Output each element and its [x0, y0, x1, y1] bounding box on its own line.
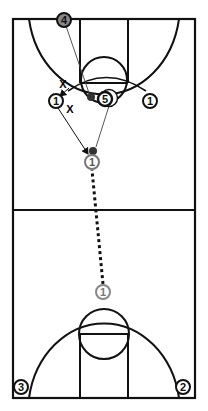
defender-x-bottom: X — [66, 103, 74, 115]
play-actions — [58, 26, 109, 284]
player-3: 3 — [14, 380, 28, 394]
players: 4 1 5 1 1 1 3 2 — [14, 13, 190, 394]
player-2-label: 2 — [180, 381, 186, 393]
dribble-dotted-line — [92, 170, 103, 284]
player-4-label: 4 — [61, 14, 68, 26]
ball-icon — [87, 93, 95, 101]
ball-icon — [89, 147, 97, 155]
player-1-right-wing: 1 — [143, 94, 157, 108]
player-1-left-label: 1 — [53, 95, 59, 107]
player-1-left-wing: 1 — [49, 94, 63, 108]
pass-line-5-to-wing — [96, 106, 109, 147]
player-1-top-key: 1 — [85, 155, 99, 169]
player-1-backcourt: 1 — [96, 285, 110, 299]
player-1-right-label: 1 — [147, 95, 153, 107]
player-2: 2 — [176, 380, 190, 394]
player-5: 5 — [98, 90, 118, 107]
player-1-backcourt-label: 1 — [100, 286, 106, 298]
bottom-half-court — [29, 309, 179, 398]
court-boundary — [13, 19, 195, 398]
player-3-label: 3 — [18, 381, 24, 393]
player-1-top-label: 1 — [89, 156, 95, 168]
basketball-court-diagram: X X 4 1 5 1 1 1 3 — [0, 0, 208, 411]
player-5-label: 5 — [102, 93, 108, 105]
pass-line-4-to-post — [66, 26, 89, 93]
player-4: 4 — [57, 13, 71, 27]
defender-x-top: X — [59, 78, 67, 90]
